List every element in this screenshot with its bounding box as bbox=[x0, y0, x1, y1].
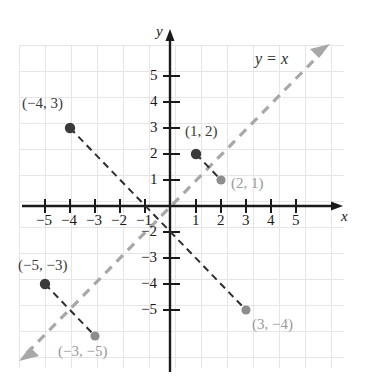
x-tick-label--2: −2 bbox=[111, 213, 127, 228]
y-tick-label--2: −2 bbox=[141, 224, 157, 239]
point-label-3-neg4: (3, −4) bbox=[252, 317, 293, 332]
x-tick-label-4: 4 bbox=[267, 213, 275, 228]
x-tick-label-5: 5 bbox=[292, 213, 300, 228]
y-axis-label: y bbox=[156, 24, 163, 39]
point-label-neg4-3: (−4, 3) bbox=[22, 96, 63, 111]
point-3-neg4 bbox=[241, 305, 250, 314]
y-axis-ticks bbox=[163, 76, 180, 310]
x-tick-label-3: 3 bbox=[242, 213, 250, 228]
x-tick-label-2: 2 bbox=[217, 213, 225, 228]
point-label-neg3-neg5: (−3, −5) bbox=[58, 344, 107, 359]
identity-line-label: y = x bbox=[255, 51, 288, 67]
x-tick-label--4: −4 bbox=[61, 213, 77, 228]
y-tick-label-5: 5 bbox=[150, 68, 158, 83]
y-axis-arrowhead bbox=[166, 29, 175, 41]
y-tick-label-2: 2 bbox=[150, 146, 158, 161]
y-tick-label--4: −4 bbox=[141, 276, 157, 291]
point-label-1-2: (1, 2) bbox=[185, 124, 218, 139]
y-tick-label-1: 1 bbox=[150, 172, 158, 187]
point-1-2 bbox=[191, 149, 201, 159]
graph-canvas bbox=[0, 0, 366, 379]
y-tick-label-4: 4 bbox=[150, 94, 158, 109]
x-tick-label--5: −5 bbox=[36, 213, 52, 228]
y-tick-label--5: −5 bbox=[141, 302, 157, 317]
point-neg5-neg3 bbox=[40, 279, 50, 289]
point-2-1 bbox=[216, 175, 225, 184]
y-tick-label--3: −3 bbox=[141, 250, 157, 265]
point-label-2-1: (2, 1) bbox=[231, 176, 264, 191]
coordinate-plane-figure: −5 −4 −3 −2 −1 1 2 3 4 5 5 4 3 2 1 −2 −3… bbox=[0, 0, 366, 379]
identity-line-y-equals-x bbox=[19, 44, 330, 361]
point-neg3-neg5 bbox=[90, 331, 99, 340]
x-tick-label--3: −3 bbox=[86, 213, 102, 228]
x-axis-label: x bbox=[341, 209, 348, 224]
x-tick-label-1: 1 bbox=[192, 213, 200, 228]
y-tick-label-3: 3 bbox=[150, 120, 158, 135]
point-label-neg5-neg3: (−5, −3) bbox=[18, 258, 67, 273]
point-neg4-3 bbox=[65, 123, 75, 133]
